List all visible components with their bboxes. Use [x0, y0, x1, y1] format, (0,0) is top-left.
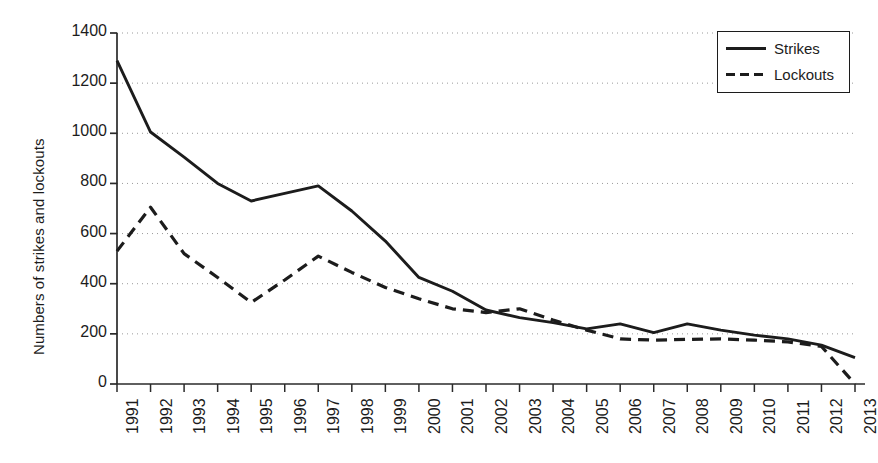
- legend-item-strikes: Strikes: [726, 38, 820, 58]
- legend-label-lockouts: Lockouts: [774, 66, 834, 83]
- legend-item-lockouts: Lockouts: [726, 64, 834, 84]
- line-chart: Numbers of strikes and lockouts 02004006…: [0, 0, 878, 463]
- legend: Strikes Lockouts: [717, 31, 850, 93]
- legend-label-strikes: Strikes: [774, 40, 820, 57]
- dashed-line-icon: [726, 68, 766, 80]
- solid-line-icon: [726, 42, 766, 54]
